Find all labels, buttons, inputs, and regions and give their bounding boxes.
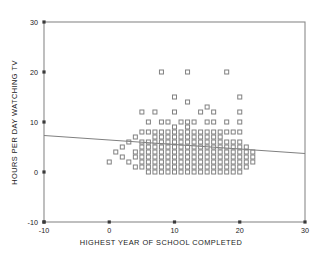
svg-text:20: 20 [30, 68, 38, 77]
regression-line [44, 136, 305, 154]
axis-tick-labels: -100102030-100102030 [28, 18, 309, 235]
y-axis-label: HOURS PER DAY WATCHING TV [10, 23, 19, 223]
svg-text:-10: -10 [39, 226, 49, 235]
plot-frame [44, 22, 305, 222]
svg-text:0: 0 [107, 226, 111, 235]
plot-canvas: -100102030-100102030 [0, 0, 322, 259]
svg-text:30: 30 [30, 18, 38, 27]
svg-text:30: 30 [301, 226, 309, 235]
x-axis-label: HIGHEST YEAR OF SCHOOL COMPLETED [0, 238, 322, 247]
data-points [107, 70, 255, 174]
svg-text:20: 20 [236, 226, 244, 235]
svg-text:10: 10 [30, 118, 38, 127]
svg-text:10: 10 [171, 226, 179, 235]
axis-ticks [42, 20, 306, 223]
svg-text:0: 0 [34, 168, 38, 177]
svg-text:-10: -10 [28, 218, 38, 227]
scatter-plot-figure: -100102030-100102030 HIGHEST YEAR OF SCH… [0, 0, 322, 259]
